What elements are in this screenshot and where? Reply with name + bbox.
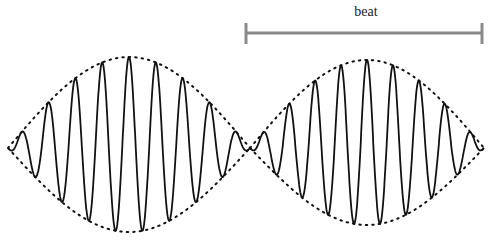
beat-diagram: [0, 0, 490, 241]
beat-annotation-bar: [246, 23, 482, 44]
beat-label: beat: [250, 4, 482, 20]
